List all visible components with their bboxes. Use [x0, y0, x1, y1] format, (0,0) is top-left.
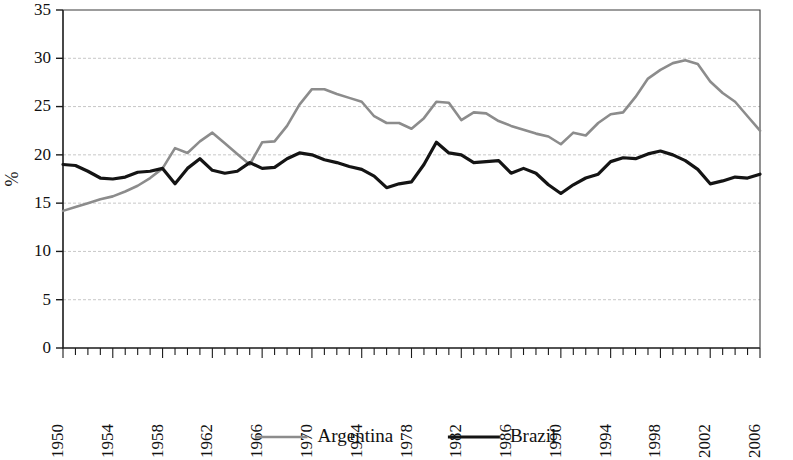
- x-axis-tick-label: 1962: [197, 424, 216, 458]
- y-axis-title: %: [2, 172, 22, 187]
- x-axis-ticks-group: [63, 348, 760, 358]
- series-line-brazil: [63, 142, 760, 193]
- series-group: [63, 60, 760, 211]
- x-axis-tick-label: 1954: [98, 424, 117, 459]
- y-axis-title-group: %: [2, 172, 22, 187]
- chart-figure: 05101520253035 1950195419581962196619701…: [0, 0, 793, 460]
- y-axis-tick-label: 30: [34, 48, 51, 67]
- y-axis-tick-label: 0: [43, 338, 52, 357]
- y-axis-tick-label: 20: [34, 145, 51, 164]
- y-axis-ticks-group: [56, 10, 63, 348]
- x-axis-tick-labels-group: 1950195419581962196619701974197819821986…: [48, 424, 764, 459]
- plot-area-border: [63, 10, 760, 348]
- legend-label-brazil: Brazil: [510, 425, 556, 446]
- x-axis-tick-label: 2002: [695, 424, 714, 458]
- x-axis-tick-label: 1994: [596, 424, 615, 459]
- x-axis-tick-label: 1982: [446, 424, 465, 458]
- x-axis-tick-label: 1998: [645, 424, 664, 458]
- y-axis-tick-label: 25: [34, 96, 51, 115]
- axes-group: [63, 10, 760, 348]
- x-axis-tick-label: 2006: [745, 424, 764, 458]
- x-axis-tick-label: 1958: [148, 424, 167, 458]
- y-axis-tick-label: 10: [34, 241, 51, 260]
- series-line-argentina: [63, 60, 760, 211]
- legend-label-argentina: Argentina: [318, 425, 394, 446]
- x-axis-tick-label: 1978: [397, 424, 416, 458]
- gridlines-group: [63, 58, 760, 299]
- x-axis-tick-label: 1966: [247, 424, 266, 458]
- y-axis-tick-label: 35: [34, 0, 51, 19]
- investment-rate-line-chart: 05101520253035 1950195419581962196619701…: [0, 0, 793, 460]
- axis-lines: [63, 10, 760, 348]
- y-axis-tick-labels-group: 05101520253035: [34, 0, 51, 357]
- y-axis-tick-label: 5: [43, 290, 52, 309]
- x-axis-tick-label: 1970: [297, 424, 316, 458]
- x-axis-tick-label: 1950: [48, 424, 67, 458]
- y-axis-tick-label: 15: [34, 193, 51, 212]
